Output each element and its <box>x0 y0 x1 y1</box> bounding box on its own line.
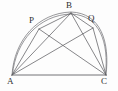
segment-AB <box>12 13 71 75</box>
vertex-label-q: Q <box>88 14 95 23</box>
segment-PB <box>39 13 71 29</box>
segment-QC <box>93 28 106 75</box>
vertex-label-a: A <box>7 77 14 86</box>
segment-PC <box>39 29 106 75</box>
vertex-label-c: C <box>101 77 107 86</box>
segment-AQ <box>12 28 93 75</box>
vertex-label-p: P <box>29 16 34 25</box>
vertex-label-b: B <box>66 1 72 10</box>
geometry-figure: A B C P Q <box>0 0 118 91</box>
